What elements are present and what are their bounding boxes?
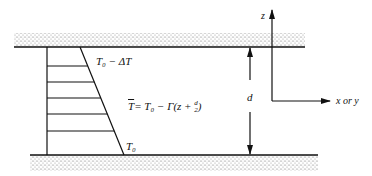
equation-close: ) [198, 100, 202, 112]
bottom-temperature-label: T₀ [126, 141, 136, 152]
coordinate-axes [272, 10, 330, 101]
mean-temperature-equation: T= T₀ − Γ(z + d2) [128, 100, 201, 114]
gap-label: d [247, 92, 253, 103]
x-axis-label: x or y [336, 96, 359, 106]
equation-rhs: = T₀ − Γ(z + [134, 100, 194, 112]
convection-layer-diagram [0, 0, 372, 176]
z-axis-label: z [261, 11, 265, 21]
top-plate [14, 33, 305, 47]
top-temperature-label: T₀ − ΔT [96, 56, 131, 67]
bottom-plate [30, 155, 318, 171]
